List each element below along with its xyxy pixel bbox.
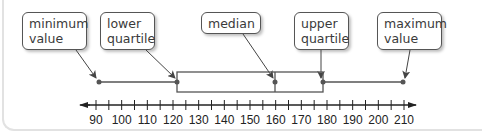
- point-upper-quartile: [321, 80, 326, 85]
- tick-label: 200: [368, 113, 388, 127]
- interquartile-box: [177, 72, 323, 92]
- tick-label: 100: [112, 113, 132, 127]
- leader-maximum: [405, 50, 410, 78]
- tick-label: 120: [163, 113, 183, 127]
- point-median: [273, 80, 278, 85]
- tick-label: 180: [317, 113, 337, 127]
- leader-lower-quartile: [146, 50, 175, 78]
- tick-label: 90: [89, 113, 103, 127]
- tick-label: 160: [266, 113, 286, 127]
- tick-label: 150: [240, 113, 260, 127]
- point-maximum: [401, 80, 406, 85]
- tick-label: 110: [138, 113, 157, 127]
- tick-label: 170: [291, 113, 311, 127]
- tick-label: 130: [189, 113, 209, 127]
- leader-minimum: [76, 50, 96, 78]
- tick-label: 190: [343, 113, 363, 127]
- point-lower-quartile: [175, 80, 180, 85]
- tick-label: 140: [214, 113, 234, 127]
- tick-label: 210: [394, 113, 414, 127]
- number-line-labels: 90100110120130140150160170180190200210: [89, 113, 414, 127]
- point-minimum: [97, 80, 102, 85]
